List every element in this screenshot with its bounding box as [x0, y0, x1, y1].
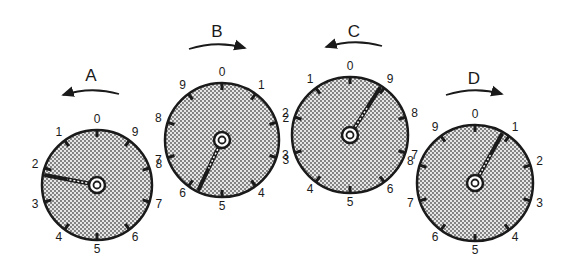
dial-label: A [85, 66, 97, 85]
dial-number: 0 [347, 59, 354, 73]
dial-number: 2 [536, 154, 543, 168]
dial-number: 3 [536, 196, 543, 210]
dial-number: 4 [258, 186, 265, 200]
dial-label: C [348, 22, 360, 41]
dial-number: 5 [94, 242, 101, 256]
dial-hub-center [94, 182, 101, 189]
dial-number: 9 [179, 78, 186, 92]
dial-number: 8 [407, 154, 414, 168]
dial-d: D0123456789 [407, 69, 543, 257]
dial-tick [524, 165, 531, 167]
dial-number: 7 [155, 153, 162, 167]
dial-tick [143, 168, 150, 170]
dial-number: 1 [512, 120, 519, 134]
dial-tick [143, 200, 150, 202]
dial-number: 5 [347, 195, 354, 209]
dial-number: 0 [219, 65, 226, 79]
dial-tick [420, 165, 427, 167]
dial-number: 4 [55, 230, 62, 244]
dial-number: 3 [282, 148, 289, 162]
dial-number: 7 [155, 197, 162, 211]
dial-b: B0123456789 [155, 22, 289, 213]
dial-a: A0987654321 [32, 66, 163, 256]
dial-number: 6 [132, 230, 139, 244]
arrow-left-icon [63, 90, 119, 95]
dial-tick [399, 151, 406, 153]
dial-tick [399, 117, 406, 119]
dial-number: 3 [32, 197, 39, 211]
dial-tick [45, 200, 52, 202]
dial-number: 6 [179, 186, 186, 200]
dial-tick [295, 151, 302, 153]
dial-tick [420, 199, 427, 201]
dial-c: C0987654321 [282, 22, 418, 209]
dial-number: 5 [472, 243, 479, 257]
dial-number: 1 [258, 78, 265, 92]
dial-number: 9 [387, 72, 394, 86]
dial-tick [45, 168, 52, 170]
arrow-left-icon [326, 42, 382, 47]
dial-number: 8 [411, 106, 418, 120]
dial-hub-center [347, 132, 354, 139]
dial-tick [168, 155, 175, 157]
dial-number: 2 [282, 106, 289, 120]
dial-tick [295, 117, 302, 119]
dial-number: 6 [387, 182, 394, 196]
dial-tick [168, 122, 175, 124]
dial-tick [270, 155, 277, 157]
dial-hub-center [219, 137, 226, 144]
dial-label: D [468, 69, 480, 88]
dial-hub-center [472, 180, 479, 187]
arrow-right-icon [189, 44, 245, 49]
dial-tick [270, 122, 277, 124]
meter-dials-figure: A0987654321B0123456789C0987654321D012345… [0, 0, 569, 275]
dial-number: 4 [512, 230, 519, 244]
dial-number: 4 [307, 182, 314, 196]
dial-number: 1 [55, 125, 62, 139]
dials-canvas: A0987654321B0123456789C0987654321D012345… [0, 0, 569, 275]
dial-number: 9 [432, 120, 439, 134]
dial-tick [524, 199, 531, 201]
dial-number: 0 [472, 107, 479, 121]
dial-label: B [211, 22, 222, 41]
dial-number: 1 [307, 72, 314, 86]
dial-number: 5 [219, 199, 226, 213]
dial-number: 0 [94, 112, 101, 126]
dial-number: 9 [132, 125, 139, 139]
arrow-right-icon [446, 90, 502, 95]
dial-number: 8 [155, 111, 162, 125]
dial-number: 6 [432, 230, 439, 244]
dial-number: 2 [32, 157, 39, 171]
dial-number: 7 [407, 196, 414, 210]
